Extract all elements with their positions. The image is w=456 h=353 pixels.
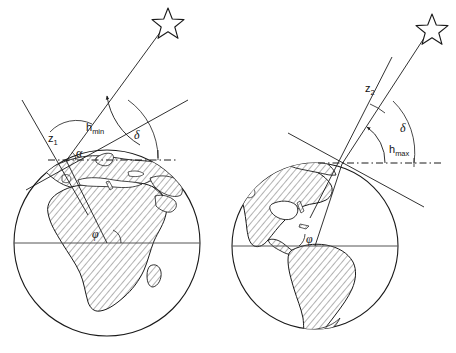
astronomy-diagram: φ z1 hmin δ α xyxy=(0,0,456,353)
british-isles xyxy=(62,175,71,183)
diagram-canvas: φ z1 hmin δ α xyxy=(0,0,456,353)
latitude-label-right: φ xyxy=(306,232,313,246)
declination-label-right: δ xyxy=(400,121,406,135)
small-angle-label-left: α xyxy=(76,146,83,160)
declination-label-left: δ xyxy=(134,128,140,142)
latitude-label-left: φ xyxy=(92,227,99,241)
